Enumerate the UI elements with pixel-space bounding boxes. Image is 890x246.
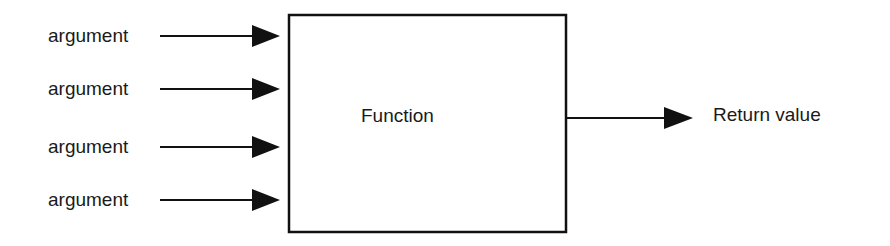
return-arrow bbox=[566, 107, 693, 129]
argument-label: argument bbox=[48, 189, 128, 211]
return-value-label: Return value bbox=[713, 104, 821, 126]
argument-arrow bbox=[160, 78, 280, 100]
argument-label: argument bbox=[48, 136, 128, 158]
argument-label: argument bbox=[48, 25, 128, 47]
argument-arrow bbox=[160, 136, 280, 158]
argument-arrow bbox=[160, 189, 280, 211]
function-label: Function bbox=[361, 105, 434, 127]
argument-label: argument bbox=[48, 78, 128, 100]
argument-arrow bbox=[160, 25, 280, 47]
